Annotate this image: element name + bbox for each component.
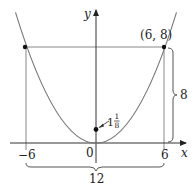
focus-leader-arrowhead-icon <box>99 124 105 129</box>
height-brace <box>168 48 177 142</box>
height-label-8: 8 <box>180 88 188 102</box>
tick-label-neg6: −6 <box>18 148 36 162</box>
focus-label-whole: 1 <box>107 116 114 129</box>
focus-label-denominator: 8 <box>115 121 120 130</box>
point-focus <box>94 127 99 132</box>
point-left-top <box>23 45 27 49</box>
width-label-12: 12 <box>89 172 104 186</box>
tick-label-0: 0 <box>86 146 94 160</box>
y-axis-label: y <box>83 7 91 21</box>
point-label-6-8: (6, 8) <box>140 28 172 42</box>
parabola-diagram: y x −6 0 6 (6, 8) 1 1 8 8 12 <box>0 0 196 190</box>
width-brace <box>26 163 164 171</box>
point-right-top <box>162 45 166 49</box>
tick-label-6: 6 <box>161 148 169 162</box>
focus-label-numerator: 1 <box>115 112 120 121</box>
x-axis-label: x <box>181 146 188 160</box>
